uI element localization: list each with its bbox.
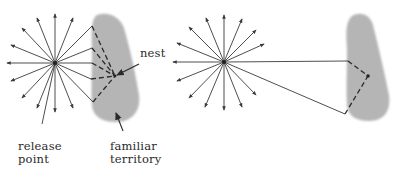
nest-label: nest bbox=[140, 47, 166, 60]
right-panel bbox=[173, 14, 389, 121]
release-rays-right bbox=[173, 15, 348, 114]
nest-marker-left bbox=[114, 75, 117, 78]
homing-diagram: nest release point familiar territory bbox=[0, 0, 398, 174]
familiar-territory-label: familiar territory bbox=[110, 140, 161, 166]
release-point-label: release point bbox=[18, 140, 62, 166]
release-point-marker-left bbox=[53, 61, 57, 65]
familiar-territory-right bbox=[346, 14, 389, 121]
release-point-marker-right bbox=[222, 60, 226, 64]
left-panel bbox=[7, 14, 139, 131]
nest-marker-right bbox=[366, 74, 370, 78]
release-rays-left bbox=[7, 14, 93, 124]
